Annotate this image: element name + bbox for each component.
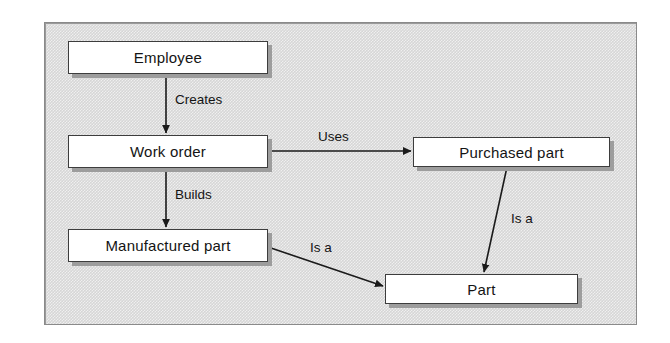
node-purchased-part[interactable]: Purchased part [413, 137, 610, 167]
diagram-canvas: Employee Work order Manufactured part Pu… [0, 0, 670, 343]
node-manufactured-part[interactable]: Manufactured part [68, 229, 268, 262]
node-part[interactable]: Part [385, 274, 578, 304]
edge-label-is-a-purchased: Is a [511, 211, 533, 226]
node-work-order[interactable]: Work order [68, 135, 268, 168]
node-employee[interactable]: Employee [68, 41, 268, 74]
edge-label-uses: Uses [318, 129, 349, 144]
edge-label-creates: Creates [175, 92, 222, 107]
edge-label-builds: Builds [175, 187, 212, 202]
edge-label-is-a-manufactured: Is a [310, 240, 332, 255]
